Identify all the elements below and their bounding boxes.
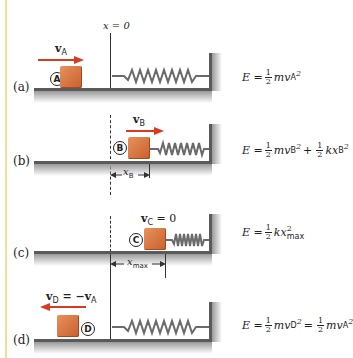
wall-shadow-b	[212, 124, 222, 164]
state-marker-c: C	[129, 233, 143, 247]
dimension-label-b: xB	[123, 166, 133, 180]
velocity-arrow-right-icon	[126, 127, 164, 135]
origin-solid-line	[110, 254, 111, 341]
velocity-arrow-right-icon	[38, 56, 84, 64]
panel-label-c: (c)	[13, 246, 29, 260]
state-marker-d: D	[81, 322, 95, 336]
left-accent-bar	[5, 0, 7, 358]
block-c	[144, 228, 166, 250]
wall-shadow-d	[212, 302, 222, 342]
velocity-label-b: vB	[133, 113, 145, 128]
wall-shadow-c	[212, 214, 222, 254]
floor-shadow-d	[34, 342, 212, 354]
origin-label: x = 0	[103, 20, 130, 31]
panel-label-a: (a)	[13, 80, 30, 94]
block-a	[60, 66, 82, 88]
velocity-arrow-left-icon	[40, 303, 86, 311]
wall-line-a	[110, 33, 111, 88]
spring-icon	[112, 319, 209, 335]
velocity-label-c: vC = 0	[141, 212, 176, 227]
spring-icon	[112, 68, 209, 84]
origin-dashed-line	[110, 216, 111, 252]
block-b	[128, 137, 150, 159]
block-d	[57, 315, 79, 337]
panel-label-d: (d)	[13, 333, 30, 347]
wall-shadow-a	[212, 53, 222, 91]
velocity-label-a: vA	[55, 42, 67, 57]
energy-equation-c: E = 12 kx 2max	[242, 224, 304, 241]
origin-dashed-line	[110, 115, 111, 195]
fraction-half: 12	[265, 69, 272, 86]
spring-compressed-icon	[150, 141, 209, 157]
dimension-label-c: xmax	[127, 256, 148, 270]
panel-label-b: (b)	[13, 154, 30, 168]
spring-max-compressed-icon	[166, 232, 209, 248]
floor-shadow-a	[34, 91, 212, 103]
energy-equation-d: E = 12 mvD2 = 12 mvA2	[242, 317, 353, 334]
state-marker-b: B	[113, 141, 127, 155]
energy-equation-a: E = 12 mvA2	[242, 69, 301, 86]
energy-equation-b: E = 12 mvB2 + 12 kxB2	[242, 142, 349, 159]
